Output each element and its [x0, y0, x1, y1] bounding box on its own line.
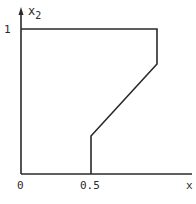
diagram-canvas: x2 1 0 0.5 x: [0, 0, 196, 204]
x-axis-label: x: [186, 179, 193, 192]
origin-label: 0: [17, 179, 24, 192]
x-tick-label: 0.5: [80, 179, 100, 192]
y-axis-label: x2: [28, 4, 41, 21]
y-axis-arrow-icon: [19, 7, 24, 15]
region-boundary: [21, 29, 157, 174]
y-tick-label: 1: [4, 23, 11, 36]
